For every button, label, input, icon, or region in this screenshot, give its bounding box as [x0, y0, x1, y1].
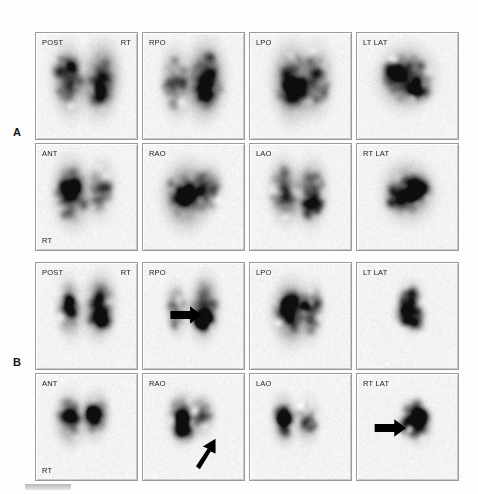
view-label: LT LAT [363, 38, 388, 47]
scan-image-rpo [143, 263, 244, 369]
scan-image-rao [143, 374, 244, 480]
caption-bar [25, 484, 71, 490]
scan-image-ant [36, 374, 137, 480]
scan-row: POST RT RPO LPO LT LAT [35, 32, 459, 140]
scan-cell-lt-lat[interactable]: LT LAT [356, 262, 459, 370]
view-label: POST [42, 38, 63, 47]
scan-row: POST RT RPO LPO LT [35, 262, 459, 370]
scan-image-lt-lat [357, 263, 458, 369]
view-label: LPO [256, 38, 272, 47]
view-label: ANT [42, 149, 58, 158]
view-label: ANT [42, 379, 58, 388]
scan-cell-rt-lat[interactable]: RT LAT [356, 373, 459, 481]
panel-letter-a: A [13, 126, 21, 138]
view-label: POST [42, 268, 63, 277]
view-label: RAO [149, 379, 166, 388]
scan-image-lpo [250, 263, 351, 369]
scan-row: ANT RT RAO LAO [35, 373, 459, 481]
scan-cell-lao[interactable]: LAO [249, 143, 352, 251]
scan-cell-post[interactable]: POST RT [35, 32, 138, 140]
scan-cell-lpo[interactable]: LPO [249, 262, 352, 370]
panel-group-a: A POST RT RPO LPO LT LAT [35, 32, 459, 251]
panel-group-b: B POST RT RPO L [35, 262, 459, 481]
scan-cell-lpo[interactable]: LPO [249, 32, 352, 140]
orientation-label: RT [42, 236, 52, 245]
view-label: LPO [256, 268, 272, 277]
figure-root: A POST RT RPO LPO LT LAT [0, 0, 478, 494]
view-label: RAO [149, 149, 166, 158]
scan-image-rt-lat [357, 144, 458, 250]
panel-letter-b: B [13, 356, 21, 368]
scan-image-lao [250, 144, 351, 250]
scan-image-rt-lat [357, 374, 458, 480]
scan-cell-rao[interactable]: RAO [142, 373, 245, 481]
view-label: RPO [149, 38, 166, 47]
scan-cell-lt-lat[interactable]: LT LAT [356, 32, 459, 140]
scan-cell-rt-lat[interactable]: RT LAT [356, 143, 459, 251]
view-label: LT LAT [363, 268, 388, 277]
scan-row: ANT RT RAO LAO RT LAT [35, 143, 459, 251]
orientation-label: RT [121, 268, 131, 277]
scan-image-ant [36, 144, 137, 250]
scan-image-rao [143, 144, 244, 250]
scan-cell-rpo[interactable]: RPO [142, 262, 245, 370]
scan-cell-post[interactable]: POST RT [35, 262, 138, 370]
view-label: RT LAT [363, 149, 389, 158]
scan-image-lt-lat [357, 33, 458, 139]
scan-cell-rpo[interactable]: RPO [142, 32, 245, 140]
scan-image-lao [250, 374, 351, 480]
view-label: LAO [256, 379, 272, 388]
scan-cell-rao[interactable]: RAO [142, 143, 245, 251]
orientation-label: RT [42, 466, 52, 475]
orientation-label: RT [121, 38, 131, 47]
scan-image-post [36, 263, 137, 369]
scan-image-rpo [143, 33, 244, 139]
view-label: RT LAT [363, 379, 389, 388]
view-label: LAO [256, 149, 272, 158]
scan-cell-ant[interactable]: ANT RT [35, 143, 138, 251]
view-label: RPO [149, 268, 166, 277]
scan-image-post [36, 33, 137, 139]
scan-cell-ant[interactable]: ANT RT [35, 373, 138, 481]
scan-cell-lao[interactable]: LAO [249, 373, 352, 481]
scan-image-lpo [250, 33, 351, 139]
